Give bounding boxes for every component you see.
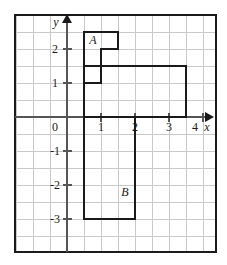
coordinate-plane-svg: x y 0 1 2 3 4 2 1 -1 -2 -3 A B [0,0,227,265]
y-tick-label-neg3: -3 [50,212,60,226]
y-tick-label-neg2: -2 [50,178,60,192]
coordinate-grid-figure: x y 0 1 2 3 4 2 1 -1 -2 -3 A B [0,0,227,265]
x-axis-label: x [203,120,210,134]
y-tick-label-neg1: -1 [50,144,60,158]
shape-label-b: B [121,185,129,199]
x-tick-label-0: 0 [52,120,58,134]
x-tick-label-4: 4 [192,120,198,134]
y-tick-label-2: 2 [52,42,58,56]
y-axis-label: y [52,15,59,29]
x-tick-label-3: 3 [166,120,172,134]
y-tick-label-1: 1 [52,76,58,90]
shape-label-a: A [88,33,97,47]
x-tick-label-1: 1 [98,120,104,134]
